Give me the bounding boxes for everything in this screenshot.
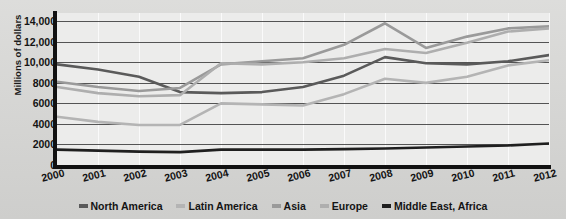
legend-item[interactable]: North America [79, 200, 163, 212]
chart-legend: North AmericaLatin AmericaAsiaEuropeMidd… [0, 196, 566, 216]
legend-swatch-icon [79, 204, 88, 208]
y-tick-label: 10,000 [6, 56, 56, 68]
legend-label: Europe [332, 200, 368, 212]
x-axis-tick-labels: 2000200120022003200420052006200720082009… [0, 168, 566, 194]
x-tick-label: 2012 [532, 166, 558, 183]
x-tick-label: 2010 [450, 166, 476, 183]
x-tick-label: 2002 [122, 166, 148, 183]
y-axis-tick-labels: 14,00012,00010,00080006000400020000 [6, 0, 56, 172]
y-tick-label: 6000 [6, 97, 56, 109]
x-tick-label: 2006 [286, 166, 312, 183]
legend-label: Latin America [188, 200, 257, 212]
x-tick-label: 2005 [245, 166, 271, 183]
legend-label: North America [91, 200, 163, 212]
series-line [57, 60, 549, 125]
x-tick-label: 2008 [368, 166, 394, 183]
x-tick-label: 2000 [40, 166, 66, 183]
legend-swatch-icon [320, 204, 329, 208]
vertical-gridline [549, 13, 550, 165]
x-tick-label: 2001 [81, 166, 107, 183]
series-lines [57, 13, 549, 165]
y-tick-label: 2000 [6, 138, 56, 150]
y-tick-label: 4000 [6, 118, 56, 130]
legend-item[interactable]: Asia [272, 200, 306, 212]
legend-label: Middle East, Africa [394, 200, 488, 212]
legend-swatch-icon [176, 204, 185, 208]
x-tick-label: 2009 [409, 166, 435, 183]
y-tick-label: 8000 [6, 77, 56, 89]
plot-area [57, 13, 549, 165]
x-tick-label: 2011 [491, 166, 516, 183]
x-tick-label: 2007 [327, 166, 353, 183]
series-line [57, 143, 549, 152]
series-line [57, 23, 549, 91]
legend-label: Asia [284, 200, 306, 212]
x-tick-label: 2003 [163, 166, 189, 183]
legend-item[interactable]: Latin America [176, 200, 257, 212]
x-tick-label: 2004 [204, 166, 230, 183]
legend-swatch-icon [382, 204, 391, 208]
legend-swatch-icon [272, 204, 281, 208]
line-chart-figure: Millions of dollars 14,00012,00010,00080… [0, 0, 566, 219]
y-tick-label: 12,000 [6, 36, 56, 48]
y-tick-label: 14,000 [6, 15, 56, 27]
legend-item[interactable]: Middle East, Africa [382, 200, 488, 212]
legend-item[interactable]: Europe [320, 200, 368, 212]
